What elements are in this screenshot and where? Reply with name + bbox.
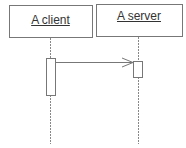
client-activation-bar[interactable] [47,59,56,96]
client-participant-label: A client [9,13,92,27]
server-activation-bar[interactable] [134,62,143,78]
server-participant-label: A server [96,9,182,23]
